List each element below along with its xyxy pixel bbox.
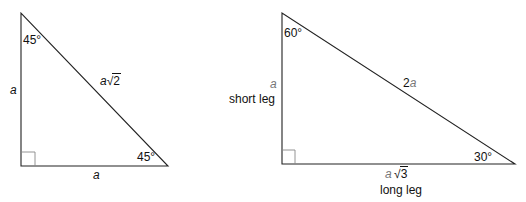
long-leg-label: long leg xyxy=(380,184,422,196)
hypotenuse-coef: a xyxy=(100,74,107,88)
long-leg-radicand: 3 xyxy=(400,166,409,181)
right-angle-marker-2 xyxy=(282,150,295,164)
long-leg-coef: a xyxy=(385,167,392,181)
long-leg-value: a √3 xyxy=(385,168,408,180)
angle-top-45: 45° xyxy=(23,34,41,46)
hypotenuse-coef-2: 2 xyxy=(403,76,410,90)
hypotenuse-label: a√2 xyxy=(100,75,121,87)
short-leg-label: short leg xyxy=(229,93,275,105)
sqrt-symbol-2: √3 xyxy=(394,168,408,180)
right-angle-marker-1 xyxy=(21,152,35,166)
short-leg-variable: a xyxy=(270,78,277,90)
hypotenuse-radicand: 2 xyxy=(112,73,121,88)
angle-bottom-right-30: 30° xyxy=(474,151,492,163)
angle-top-60: 60° xyxy=(284,27,302,39)
angle-bottom-right-45: 45° xyxy=(137,151,155,163)
hypotenuse-variable: a xyxy=(410,76,417,90)
hypotenuse-2a-label: 2a xyxy=(403,77,416,89)
triangle-30-60-90 xyxy=(282,13,515,164)
triangle-45-45-90 xyxy=(21,13,168,166)
left-leg-label: a xyxy=(10,84,17,96)
sqrt-symbol: √2 xyxy=(107,75,121,87)
bottom-leg-label: a xyxy=(93,169,100,181)
